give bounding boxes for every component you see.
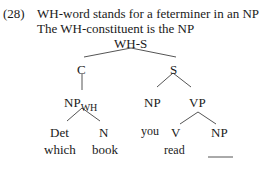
node-vp: VP <box>189 96 206 109</box>
tree-branches <box>0 0 264 183</box>
node-det: Det <box>50 126 69 139</box>
node-vp-np: NP <box>211 126 228 139</box>
word-read: read <box>164 144 185 156</box>
node-np-wh-label: NP <box>64 95 81 110</box>
node-np-wh-subscript: WH <box>81 102 98 113</box>
word-book: book <box>92 143 118 156</box>
branch-vp-np <box>198 112 216 124</box>
node-n: N <box>99 126 108 139</box>
node-root-wh-s: WH-S <box>114 37 147 50</box>
branch-vp-v <box>180 112 198 124</box>
word-you: you <box>141 125 159 137</box>
node-s-np: NP <box>144 96 161 109</box>
word-which: which <box>44 143 76 156</box>
node-np-wh: NPWH <box>64 96 97 110</box>
node-v: V <box>171 126 180 139</box>
node-c: C <box>77 63 86 76</box>
node-s: S <box>170 63 177 76</box>
